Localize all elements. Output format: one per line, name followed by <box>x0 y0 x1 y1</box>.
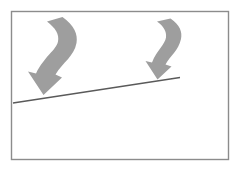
diagram-figure: Two curved downward arrows over a rising… <box>0 0 240 173</box>
diagram-canvas <box>0 0 240 173</box>
